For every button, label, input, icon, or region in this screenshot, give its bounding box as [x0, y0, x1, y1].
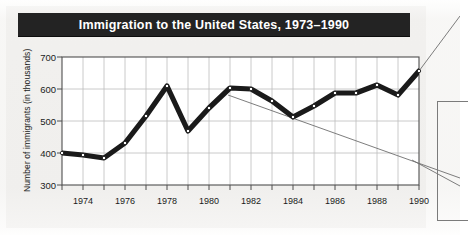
chart-title-bar: Immigration to the United States, 1973–1…	[18, 13, 410, 36]
x-tick-1984: 1984	[276, 196, 310, 206]
y-tick-300: 300	[30, 180, 56, 191]
x-tick-1978: 1978	[150, 196, 184, 206]
x-tick-1974: 1974	[66, 196, 100, 206]
y-tick-500: 500	[30, 116, 56, 127]
y-tick-700: 700	[30, 52, 56, 63]
x-tick-1986: 1986	[318, 196, 352, 206]
x-tick-1976: 1976	[108, 196, 142, 206]
page-title: Immigration to the United States, 1973–1…	[79, 18, 350, 32]
y-axis-label-wrap: Number of immigrants (in thousands)	[10, 0, 30, 200]
y-tick-600: 600	[30, 84, 56, 95]
x-tick-1988: 1988	[360, 196, 394, 206]
x-tick-1982: 1982	[234, 196, 268, 206]
callout-box	[437, 101, 468, 221]
y-tick-400: 400	[30, 148, 56, 159]
x-tick-1980: 1980	[192, 196, 226, 206]
x-tick-1990: 1990	[402, 196, 436, 206]
